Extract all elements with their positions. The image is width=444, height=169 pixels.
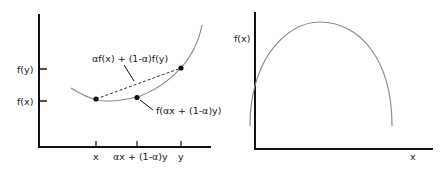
- label-y: y: [178, 151, 184, 162]
- chord-line: [96, 68, 181, 99]
- point-fy: [178, 65, 183, 70]
- label-fy: f(y): [17, 64, 33, 75]
- right-label-x: x: [410, 151, 416, 162]
- label-chord: αf(x) + (1-α)f(y): [92, 53, 168, 64]
- curve-point-pointer: [140, 100, 153, 110]
- right-concave-plot: f(x) x: [234, 12, 433, 162]
- label-mix: αx + (1-α)y: [113, 151, 168, 162]
- left-convex-plot: f(y) f(x) αf(x) + (1-α)f(y) f(αx + (1-α)…: [17, 14, 221, 162]
- concave-curve: [250, 22, 392, 126]
- point-fx: [93, 96, 98, 101]
- chord-pointer: [124, 65, 134, 81]
- label-fx: f(x): [17, 96, 33, 107]
- point-mix: [134, 95, 139, 100]
- label-x: x: [93, 151, 99, 162]
- convexity-diagram: f(y) f(x) αf(x) + (1-α)f(y) f(αx + (1-α)…: [0, 0, 444, 169]
- label-curve-point: f(αx + (1-α)y): [156, 105, 221, 116]
- right-label-fx: f(x): [234, 33, 250, 44]
